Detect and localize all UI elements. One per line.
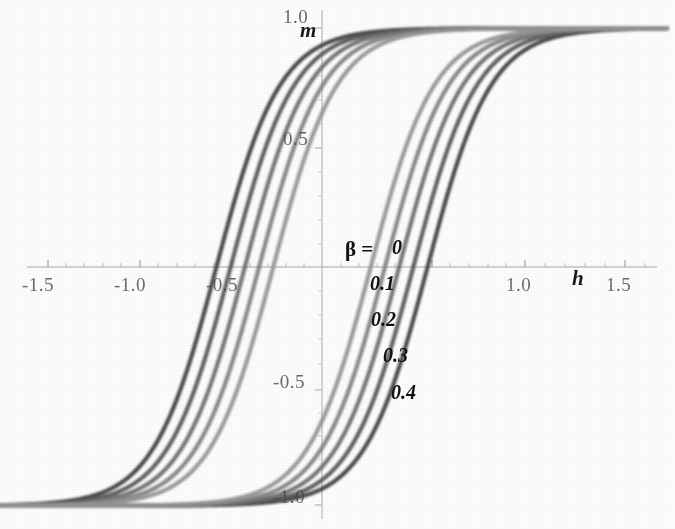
y-tick-label-0.5: 0.5 bbox=[283, 128, 308, 150]
x-axis-label: h bbox=[572, 266, 584, 291]
legend-entry-0.4: 0.4 bbox=[391, 381, 416, 404]
x-tick-label--1.0: -1.0 bbox=[114, 274, 146, 296]
legend-entry-0.1: 0.1 bbox=[370, 272, 395, 295]
y-tick-label--0.5: -0.5 bbox=[273, 371, 305, 393]
legend-title: β = bbox=[345, 237, 373, 262]
plot-canvas bbox=[0, 0, 675, 529]
x-tick-label-1.5: 1.5 bbox=[606, 274, 631, 296]
x-tick-label-1.0: 1.0 bbox=[506, 274, 531, 296]
axis-lines bbox=[27, 10, 657, 519]
x-tick-label--1.5: -1.5 bbox=[22, 274, 54, 296]
legend-entry-0: 0 bbox=[392, 236, 402, 259]
y-tick-label--1.0: -1.0 bbox=[273, 486, 305, 508]
hysteresis-plot: 1.0 0.5 -0.5 -1.0 -1.5 -1.0 -0.5 1.0 1.5… bbox=[0, 0, 675, 529]
legend-entry-0.3: 0.3 bbox=[383, 344, 408, 367]
y-axis-label: m bbox=[300, 18, 316, 43]
x-tick-label--0.5: -0.5 bbox=[206, 274, 238, 296]
legend-entry-0.2: 0.2 bbox=[371, 308, 396, 331]
